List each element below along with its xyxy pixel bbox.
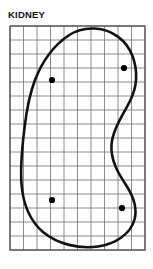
kidney-diagram-canvas: [0, 0, 153, 269]
marker-lower-left: [49, 197, 55, 203]
marker-lower-right: [119, 205, 125, 211]
marker-upper-right: [121, 65, 127, 71]
kidney-figure: KIDNEY: [0, 0, 153, 269]
marker-upper-left: [49, 77, 55, 83]
